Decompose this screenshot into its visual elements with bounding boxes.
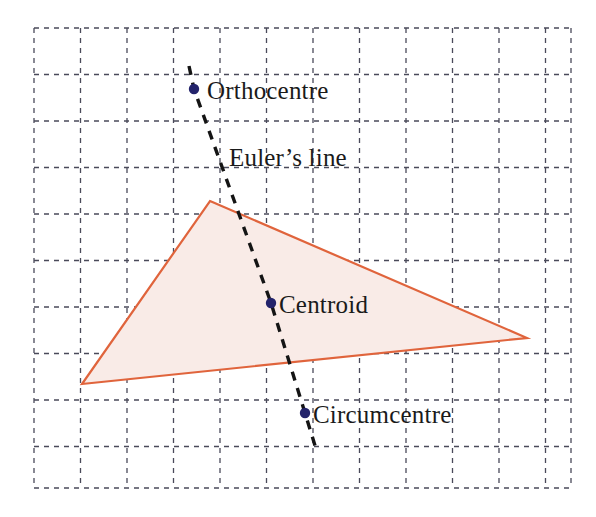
euler-line-label: Euler’s line [229, 145, 347, 170]
centroid-label: Centroid [279, 292, 368, 317]
circumcentre-label: Circumcentre [313, 402, 451, 427]
euler-line-figure: Euler’s line Orthocentre Centroid Circum… [0, 0, 596, 517]
orthocentre-label: Orthocentre [207, 78, 329, 103]
